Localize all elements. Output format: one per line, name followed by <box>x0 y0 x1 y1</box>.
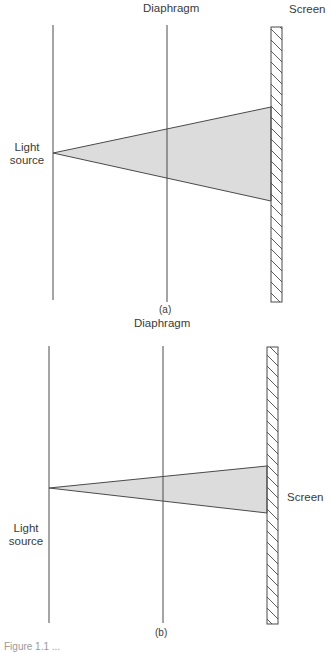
diaphragm-label-a: Diaphragm <box>143 2 199 15</box>
screen-label-b: Screen <box>287 491 323 504</box>
screen-label-a: Screen <box>289 3 325 16</box>
light-source-label-b-line1: Light <box>8 522 44 535</box>
light-beam-a <box>53 107 271 201</box>
figure-caption: Figure 1.1 ... <box>4 641 60 652</box>
panel-label-b: (b) <box>155 626 167 639</box>
light-source-label-a-line2: source <box>8 154 46 167</box>
diaphragm-label-b: Diaphragm <box>134 317 190 330</box>
light-source-label-a-line1: Light <box>8 141 46 154</box>
light-beam-b <box>49 466 267 513</box>
panel-label-a: (a) <box>159 303 171 316</box>
panel-a <box>53 25 282 302</box>
screen-b <box>267 347 278 624</box>
panel-b <box>49 346 278 624</box>
screen-a <box>271 27 282 302</box>
light-source-label-a: Light source <box>8 141 46 167</box>
light-source-label-b-line2: source <box>8 535 44 548</box>
light-source-label-b: Light source <box>8 522 44 548</box>
